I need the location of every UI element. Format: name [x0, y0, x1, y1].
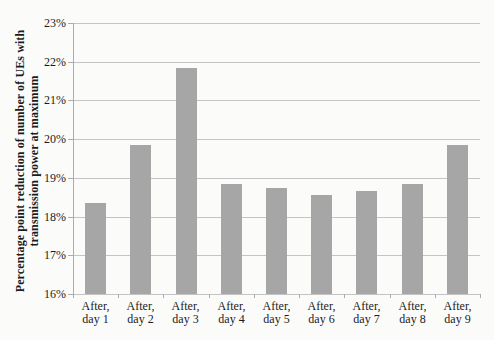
y-tick-label: 16%	[32, 288, 66, 300]
gridline	[73, 294, 480, 295]
x-tick-mark	[299, 294, 300, 298]
bar	[311, 195, 332, 294]
gridline	[73, 139, 480, 140]
y-tick-label: 21%	[32, 94, 66, 106]
x-category-label: After,day 4	[209, 300, 254, 326]
bar	[356, 191, 377, 294]
x-tick-mark	[73, 294, 74, 298]
x-tick-mark	[209, 294, 210, 298]
x-category-label-line2: day 9	[435, 313, 480, 326]
gridline	[73, 62, 480, 63]
y-tick-label: 20%	[32, 133, 66, 145]
y-tick-label: 23%	[32, 17, 66, 29]
x-tick-mark	[118, 294, 119, 298]
x-category-label-line2: day 1	[73, 313, 118, 326]
x-category-label: After,day 6	[299, 300, 344, 326]
x-category-label-line2: day 3	[163, 313, 208, 326]
x-tick-mark	[480, 294, 481, 298]
y-axis-line	[73, 23, 74, 294]
y-tick-label: 19%	[32, 172, 66, 184]
x-tick-mark	[390, 294, 391, 298]
y-tick-label: 18%	[32, 211, 66, 223]
x-tick-mark	[435, 294, 436, 298]
y-tick-label: 17%	[32, 249, 66, 261]
x-category-label: After,day 9	[435, 300, 480, 326]
bar	[176, 68, 197, 294]
bar	[447, 145, 468, 294]
bar-chart: Percentage point reduction of number of …	[0, 0, 494, 340]
x-category-label-line2: day 5	[254, 313, 299, 326]
y-axis-title-line1: Percentage point reduction of number of …	[13, 11, 27, 311]
x-category-label-line2: day 4	[209, 313, 254, 326]
x-category-label-line2: day 2	[118, 313, 163, 326]
bar	[85, 203, 106, 294]
x-tick-mark	[344, 294, 345, 298]
x-category-label-line2: day 8	[390, 313, 435, 326]
x-category-label: After,day 5	[254, 300, 299, 326]
bar	[130, 145, 151, 294]
bar	[266, 188, 287, 294]
x-category-label: After,day 2	[118, 300, 163, 326]
x-tick-mark	[254, 294, 255, 298]
gridline	[73, 100, 480, 101]
x-category-label-line2: day 6	[299, 313, 344, 326]
bar	[402, 184, 423, 294]
bar	[221, 184, 242, 294]
x-category-label: After,day 1	[73, 300, 118, 326]
x-category-label: After,day 8	[390, 300, 435, 326]
x-category-label: After,day 7	[344, 300, 389, 326]
x-category-label: After,day 3	[163, 300, 208, 326]
gridline	[73, 23, 480, 24]
y-tick-label: 22%	[32, 56, 66, 68]
x-category-label-line2: day 7	[344, 313, 389, 326]
x-tick-mark	[163, 294, 164, 298]
